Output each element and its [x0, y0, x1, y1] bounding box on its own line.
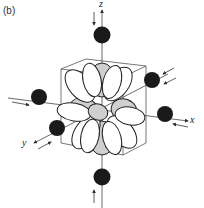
- ligand-plus-y: [38, 120, 65, 149]
- diagram-canvas: [0, 0, 204, 208]
- d-orbital-lobes: [56, 62, 147, 157]
- ligand-minus-x: [12, 89, 47, 105]
- ligand-plus-x: [157, 106, 188, 127]
- y-axis-label: y: [22, 137, 26, 148]
- x-axis-label: x: [190, 114, 194, 125]
- panel-label: (b): [3, 5, 15, 16]
- z-axis-label: z: [99, 0, 103, 9]
